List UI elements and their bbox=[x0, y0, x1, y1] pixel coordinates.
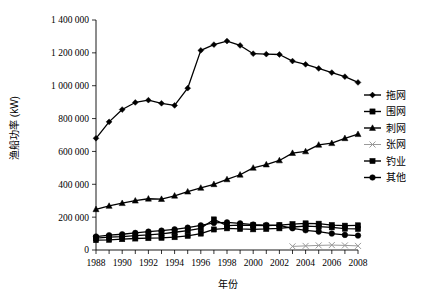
data-point-marker bbox=[211, 220, 217, 226]
data-point-marker bbox=[146, 236, 151, 241]
data-point-marker bbox=[198, 223, 204, 229]
legend-item-1[interactable]: 拖网 bbox=[364, 89, 406, 101]
data-point-marker bbox=[146, 229, 152, 235]
data-point-marker bbox=[342, 226, 347, 231]
data-point-marker bbox=[263, 51, 269, 57]
data-point-marker bbox=[342, 74, 348, 80]
data-point-marker bbox=[370, 92, 376, 98]
data-point-marker bbox=[370, 175, 376, 181]
y-axis-ticks: 0200 000400 000600 000800 0001 000 0001 … bbox=[51, 15, 96, 255]
x-tick-label: 1998 bbox=[218, 258, 237, 268]
data-point-marker bbox=[224, 220, 230, 226]
legend-item-5[interactable]: 钓业 bbox=[364, 155, 406, 167]
data-point-marker bbox=[224, 38, 230, 44]
series-3 bbox=[93, 131, 361, 212]
y-tick-label: 1 400 000 bbox=[51, 15, 89, 25]
data-point-marker bbox=[316, 229, 322, 235]
x-tick-label: 2006 bbox=[322, 258, 341, 268]
legend-item-label: 其他 bbox=[386, 171, 406, 183]
data-point-marker bbox=[250, 222, 256, 228]
data-point-marker bbox=[290, 58, 296, 64]
data-point-marker bbox=[224, 226, 229, 231]
data-point-marker bbox=[355, 226, 360, 231]
data-point-marker bbox=[198, 47, 204, 53]
data-point-marker bbox=[303, 61, 309, 67]
data-point-marker bbox=[198, 231, 203, 236]
data-point-marker bbox=[172, 227, 178, 233]
x-tick-label: 1994 bbox=[165, 258, 184, 268]
legend-item-label: 拖网 bbox=[386, 89, 406, 101]
data-point-marker bbox=[132, 100, 138, 106]
y-tick-label: 1 200 000 bbox=[51, 48, 89, 58]
y-tick-label: 600 000 bbox=[58, 147, 89, 157]
data-point-marker bbox=[159, 228, 165, 234]
x-axis-title: 年份 bbox=[218, 278, 238, 290]
data-point-marker bbox=[159, 100, 165, 106]
data-point-marker bbox=[120, 237, 125, 242]
legend-item-label: 刺网 bbox=[386, 123, 406, 134]
y-tick-label: 800 000 bbox=[58, 114, 89, 124]
legend-item-label: 围网 bbox=[386, 106, 406, 117]
y-axis-title-label: 渔船功率 (kW) bbox=[8, 96, 20, 160]
x-tick-label: 1996 bbox=[191, 258, 210, 268]
data-point-marker bbox=[185, 225, 191, 231]
data-point-marker bbox=[342, 232, 348, 238]
data-point-marker bbox=[172, 235, 177, 240]
data-point-marker bbox=[355, 233, 361, 239]
data-point-marker bbox=[316, 66, 322, 72]
data-point-marker bbox=[211, 42, 217, 48]
y-tick-label: 400 000 bbox=[58, 180, 89, 190]
x-tick-label: 2000 bbox=[244, 258, 263, 268]
data-point-marker bbox=[329, 70, 335, 76]
x-tick-label: 2008 bbox=[349, 258, 368, 268]
legend-item-2[interactable]: 围网 bbox=[364, 106, 406, 117]
data-point-marker bbox=[146, 97, 152, 103]
data-point-marker bbox=[238, 226, 243, 231]
legend-item-4[interactable]: 张网 bbox=[364, 139, 406, 150]
axes bbox=[96, 20, 358, 250]
data-point-marker bbox=[303, 227, 309, 233]
x-tick-label: 1992 bbox=[139, 258, 158, 268]
data-point-marker bbox=[211, 227, 216, 232]
data-point-marker bbox=[370, 109, 375, 114]
legend-item-3[interactable]: 刺网 bbox=[364, 123, 406, 134]
data-point-marker bbox=[93, 234, 99, 240]
series-layer bbox=[93, 38, 361, 249]
data-point-marker bbox=[355, 80, 361, 86]
x-axis-title-label: 年份 bbox=[218, 278, 238, 290]
line-chart: 渔船功率 (kW) 0200 000400 000600 000800 0001… bbox=[0, 0, 431, 298]
x-tick-label: 2004 bbox=[296, 258, 315, 268]
legend-item-label: 钓业 bbox=[386, 155, 406, 167]
series-1 bbox=[93, 38, 361, 141]
legend-item-6[interactable]: 其他 bbox=[364, 171, 406, 183]
y-tick-label: 0 bbox=[84, 245, 89, 255]
data-point-marker bbox=[119, 231, 125, 237]
data-point-marker bbox=[276, 157, 282, 163]
x-tick-label: 1988 bbox=[87, 258, 106, 268]
data-point-marker bbox=[329, 225, 334, 230]
data-point-marker bbox=[237, 221, 243, 227]
series-4 bbox=[290, 242, 362, 249]
y-axis-title: 渔船功率 (kW) bbox=[8, 96, 20, 160]
legend-item-label: 张网 bbox=[386, 139, 406, 150]
x-axis-ticks: 1988199019921994199619982000200220042006… bbox=[87, 250, 368, 268]
data-point-marker bbox=[290, 226, 296, 232]
data-point-marker bbox=[329, 231, 335, 237]
series-line bbox=[293, 245, 359, 246]
data-point-marker bbox=[355, 131, 361, 137]
data-point-marker bbox=[316, 224, 321, 229]
chart-legend: 拖网围网刺网张网钓业其他 bbox=[364, 89, 406, 184]
x-tick-label: 2002 bbox=[270, 258, 289, 268]
data-point-marker bbox=[159, 235, 164, 240]
y-tick-label: 200 000 bbox=[58, 213, 89, 223]
series-line bbox=[96, 41, 358, 138]
data-point-marker bbox=[277, 52, 283, 58]
data-point-marker bbox=[370, 158, 375, 163]
data-point-marker bbox=[277, 223, 283, 229]
data-point-marker bbox=[133, 236, 138, 241]
chart-container: 渔船功率 (kW) 0200 000400 000600 000800 0001… bbox=[0, 0, 431, 298]
data-point-marker bbox=[106, 232, 112, 238]
data-point-marker bbox=[264, 222, 270, 228]
data-point-marker bbox=[133, 230, 139, 236]
y-tick-label: 1 000 000 bbox=[51, 81, 89, 91]
